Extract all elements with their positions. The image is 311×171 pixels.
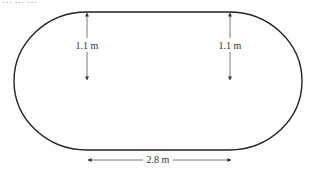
left-radius-label: 1.1 m [76, 40, 99, 51]
track-outline [14, 12, 302, 150]
length-dimension: 2.8 m [88, 154, 231, 165]
length-label: 2.8 m [147, 154, 170, 165]
track-diagram: … … … 1.1 m 1.1 m 2.8 m [0, 0, 311, 171]
header-fragment: … … … [2, 0, 37, 5]
left-radius-dimension: 1.1 m [76, 13, 99, 80]
right-radius-dimension: 1.1 m [219, 13, 242, 80]
right-radius-label: 1.1 m [219, 40, 242, 51]
